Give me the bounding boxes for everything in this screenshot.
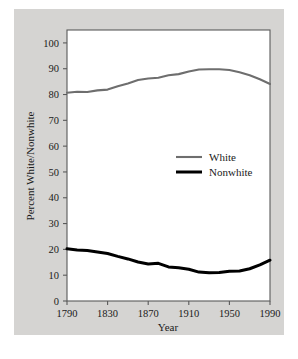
y-tick-label: 70 (49, 115, 60, 126)
legend-label-nonwhite: Nonwhite (209, 166, 253, 178)
y-axis-title: Percent White/Nonwhite (24, 111, 36, 220)
y-tick-label: 90 (49, 63, 60, 74)
y-tick-label: 40 (49, 192, 60, 203)
x-tick-label: 1790 (57, 308, 78, 319)
x-axis-title: Year (158, 321, 179, 333)
legend-label-white: White (209, 151, 236, 163)
figure-container: 0102030405060708090100 17901830187019101… (0, 0, 298, 359)
y-tick-label: 60 (49, 141, 60, 152)
y-tick-label: 80 (49, 89, 60, 100)
y-tick-label: 30 (49, 218, 60, 229)
x-tick-label: 1910 (178, 308, 199, 319)
y-tick-label: 0 (54, 296, 59, 307)
y-tick-label: 20 (49, 244, 60, 255)
x-tick-label: 1990 (260, 308, 281, 319)
y-axis-ticks: 0102030405060708090100 (43, 38, 67, 307)
y-tick-label: 10 (49, 270, 60, 281)
y-tick-label: 100 (43, 38, 59, 49)
x-tick-label: 1830 (97, 308, 118, 319)
x-tick-label: 1870 (138, 308, 159, 319)
line-chart: 0102030405060708090100 17901830187019101… (0, 0, 298, 359)
x-tick-label: 1950 (219, 308, 240, 319)
y-tick-label: 50 (49, 167, 60, 178)
x-axis-ticks: 179018301870191019501990 (57, 301, 281, 319)
